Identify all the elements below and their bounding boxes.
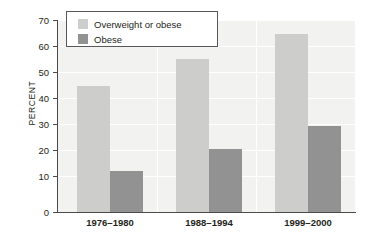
gridline-vertical-1 [157, 20, 158, 212]
x-tick-label-1976-1980: 1976–1980 [60, 217, 160, 228]
y-tick-label-70: 70 [27, 15, 49, 26]
y-tick-label-0: 0 [27, 207, 49, 218]
bar-overweight-1988-1994 [176, 59, 209, 212]
bar-obese-1988-1994 [209, 149, 242, 212]
y-tick-mark-70 [53, 20, 57, 21]
y-tick-label-60: 60 [27, 41, 49, 52]
x-axis-line [57, 212, 356, 213]
bar-overweight-1976-1980 [77, 86, 110, 212]
y-tick-mark-60 [53, 46, 57, 47]
bar-obese-1999-2000 [308, 126, 341, 212]
y-axis-line [57, 20, 58, 213]
y-tick-mark-40 [53, 98, 57, 99]
legend-entry-overweight: Overweight or obese [78, 17, 182, 31]
y-tick-label-20: 20 [27, 145, 49, 156]
x-tick-label-1999-2000: 1999–2000 [258, 217, 358, 228]
y-tick-mark-30 [53, 124, 57, 125]
legend: Overweight or obese Obese [66, 11, 218, 47]
y-axis-title: PERCENT [27, 68, 37, 138]
legend-label-overweight: Overweight or obese [94, 19, 182, 30]
plot-area [58, 20, 355, 212]
legend-swatch-overweight-icon [78, 19, 88, 29]
y-tick-mark-0 [53, 212, 57, 213]
legend-label-obese: Obese [94, 34, 122, 45]
y-tick-mark-10 [53, 176, 57, 177]
y-tick-label-10: 10 [27, 171, 49, 182]
legend-swatch-obese-icon [78, 34, 88, 44]
bar-obese-1976-1980 [110, 171, 143, 212]
y-tick-mark-50 [53, 72, 57, 73]
gridline-vertical-2 [256, 20, 257, 212]
x-tick-label-1988-1994: 1988–1994 [159, 217, 259, 228]
bar-chart-figure: 70 60 50 40 30 20 10 0 PERCENT 1976–1980… [0, 0, 390, 244]
bar-overweight-1999-2000 [275, 34, 308, 212]
y-tick-mark-20 [53, 150, 57, 151]
legend-entry-obese: Obese [78, 32, 122, 46]
